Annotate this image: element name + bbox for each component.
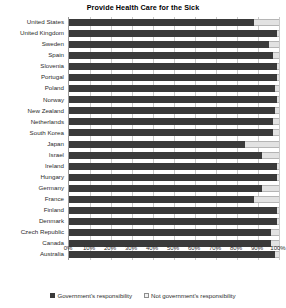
bar-segment-government	[69, 229, 271, 236]
table-row	[69, 85, 279, 92]
legend-item-not-government: Not government's responsibility	[144, 292, 235, 299]
category-label: Germany	[0, 185, 64, 192]
axis-tick-label: 70%	[209, 245, 221, 251]
category-label: Czech Republic	[0, 229, 64, 236]
axis-tick-label: 60%	[188, 245, 200, 251]
table-row	[69, 30, 279, 37]
bar-segment-not-government	[277, 96, 279, 103]
chart-container: Provide Health Care for the Sick United …	[0, 0, 286, 308]
bar-segment-government	[69, 207, 277, 214]
legend-item-government: Government's responsibility	[50, 292, 132, 299]
bar-segment-government	[69, 96, 277, 103]
legend-swatch-government-icon	[50, 293, 55, 298]
bar-segment-government	[69, 74, 277, 81]
bar-segment-not-government	[273, 129, 279, 136]
category-label: Poland	[0, 85, 64, 92]
bar-segment-not-government	[269, 41, 280, 48]
bar-segment-not-government	[277, 218, 279, 225]
bar-segment-not-government	[271, 229, 279, 236]
category-label: Spain	[0, 52, 64, 59]
bar-segment-government	[69, 152, 262, 159]
chart-title: Provide Health Care for the Sick	[0, 3, 286, 12]
bar-segment-not-government	[245, 141, 279, 148]
bar-segment-government	[69, 107, 275, 114]
category-label: Norway	[0, 97, 64, 104]
bar-segment-government	[69, 218, 277, 225]
bar-segment-government	[69, 174, 277, 181]
bar-segment-government	[69, 52, 273, 59]
table-row	[69, 63, 279, 70]
gridline	[279, 17, 280, 260]
bar-segment-government	[69, 141, 245, 148]
category-label: United Kingdom	[0, 30, 64, 37]
table-row	[69, 129, 279, 136]
table-row	[69, 52, 279, 59]
legend-label-government: Government's responsibility	[57, 292, 132, 299]
category-label: Ireland	[0, 163, 64, 170]
axis-tick-label: 20%	[104, 245, 116, 251]
category-axis-labels: United StatesUnited KingdomSwedenSpainSl…	[0, 17, 66, 260]
category-label: South Korea	[0, 130, 64, 137]
table-row	[69, 19, 279, 26]
category-label: Portugal	[0, 74, 64, 81]
category-label: Japan	[0, 141, 64, 148]
value-axis-ticks: 0%10%20%30%40%50%60%70%80%90%100%	[68, 245, 278, 257]
category-label: Finland	[0, 207, 64, 214]
table-row	[69, 174, 279, 181]
bar-segment-government	[69, 185, 262, 192]
table-row	[69, 74, 279, 81]
bar-segment-not-government	[275, 85, 279, 92]
axis-tick-label: 90%	[251, 245, 263, 251]
table-row	[69, 185, 279, 192]
axis-tick-label: 40%	[146, 245, 158, 251]
bar-segment-not-government	[277, 163, 279, 170]
table-row	[69, 218, 279, 225]
table-row	[69, 41, 279, 48]
table-row	[69, 163, 279, 170]
axis-tick-label: 30%	[125, 245, 137, 251]
category-label: Sweden	[0, 41, 64, 48]
bar-segment-not-government	[277, 30, 279, 37]
axis-tick-label: 100%	[270, 245, 285, 251]
table-row	[69, 152, 279, 159]
bar-segment-government	[69, 19, 254, 26]
category-label: Canada	[0, 240, 64, 247]
bar-segment-government	[69, 41, 269, 48]
category-label: New Zealand	[0, 108, 64, 115]
bar-segment-government	[69, 63, 277, 70]
bar-segment-not-government	[254, 19, 279, 26]
category-label: Hungary	[0, 174, 64, 181]
bar-segment-government	[69, 129, 273, 136]
bar-segment-not-government	[275, 107, 279, 114]
category-label: Israel	[0, 152, 64, 159]
plot-area	[68, 17, 280, 260]
axis-tick-label: 50%	[167, 245, 179, 251]
category-label: Netherlands	[0, 119, 64, 126]
bar-segment-government	[69, 30, 277, 37]
category-label: Slovenia	[0, 63, 64, 70]
plot-wrapper: United StatesUnited KingdomSwedenSpainSl…	[0, 17, 286, 265]
table-row	[69, 207, 279, 214]
table-row	[69, 107, 279, 114]
bar-segment-not-government	[277, 74, 279, 81]
table-row	[69, 96, 279, 103]
axis-tick-label: 0%	[64, 245, 73, 251]
bar-segment-not-government	[277, 207, 279, 214]
axis-tick-label: 80%	[230, 245, 242, 251]
category-label: United States	[0, 19, 64, 26]
bar-segment-government	[69, 163, 277, 170]
bar-segment-government	[69, 118, 273, 125]
bar-segment-not-government	[273, 118, 279, 125]
category-label: Denmark	[0, 218, 64, 225]
bar-segment-not-government	[254, 196, 279, 203]
category-label: Australia	[0, 251, 64, 258]
category-label: France	[0, 196, 64, 203]
table-row	[69, 196, 279, 203]
bar-segment-not-government	[262, 185, 279, 192]
bar-segment-not-government	[277, 174, 279, 181]
bar-segment-not-government	[273, 52, 279, 59]
legend-swatch-not-government-icon	[144, 293, 149, 298]
bar-segment-not-government	[262, 152, 279, 159]
bar-segment-government	[69, 196, 254, 203]
axis-tick-label: 10%	[83, 245, 95, 251]
